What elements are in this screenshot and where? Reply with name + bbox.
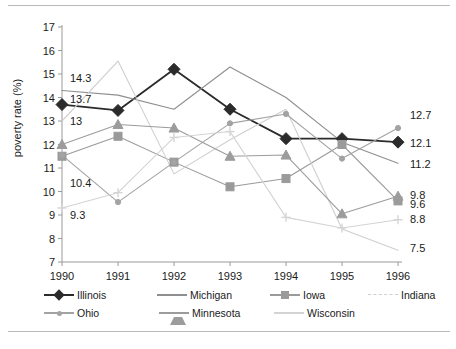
annotation-value: 12.1 (410, 137, 431, 149)
data-point-ohio-1993 (227, 121, 232, 126)
data-point-ohio-1992 (171, 160, 176, 165)
svg-text:15: 15 (43, 68, 55, 80)
annotation-value: 9.3 (70, 209, 85, 221)
svg-text:1996: 1996 (386, 270, 410, 282)
legend-swatch-illinois-icon (44, 288, 74, 302)
svg-text:9: 9 (49, 209, 55, 221)
legend-label: Michigan (190, 289, 232, 301)
legend-swatch-indiana-icon (368, 288, 398, 302)
svg-text:14: 14 (43, 92, 55, 104)
annotation-value: 13.7 (70, 93, 91, 105)
data-point-wisconsin-1990 (58, 203, 67, 212)
svg-text:1995: 1995 (330, 270, 354, 282)
legend-label: Illinois (77, 289, 106, 301)
data-point-wisconsin-1994 (282, 213, 291, 222)
annotation-value: 7.5 (410, 242, 425, 254)
data-point-iowa-1991 (114, 132, 122, 140)
data-point-minnesota-1996 (393, 191, 403, 200)
data-point-wisconsin-1993 (226, 127, 235, 136)
svg-text:1992: 1992 (162, 270, 186, 282)
legend-item-michigan[interactable]: Michigan (157, 286, 233, 304)
data-point-iowa-1995 (338, 141, 346, 149)
svg-text:17: 17 (43, 21, 55, 33)
svg-text:8: 8 (49, 233, 55, 245)
legend-label: Wisconsin (307, 307, 355, 319)
annotation-value: 14.3 (70, 72, 91, 84)
data-point-minnesota-1994 (281, 150, 291, 159)
svg-text:10: 10 (43, 186, 55, 198)
svg-text:12: 12 (43, 139, 55, 151)
data-point-illinois-1990 (56, 99, 68, 111)
svg-text:1993: 1993 (218, 270, 242, 282)
data-point-iowa-1993 (226, 183, 234, 191)
legend-swatch-minnesota-icon (159, 306, 189, 320)
legend-item-indiana[interactable]: Indiana (368, 286, 444, 304)
legend-swatch-michigan-icon (157, 288, 187, 302)
legend-swatch-wisconsin-icon (274, 306, 304, 320)
data-point-wisconsin-1996 (394, 215, 403, 224)
data-point-illinois-1993 (224, 103, 236, 115)
annotation-value: 9.6 (410, 198, 425, 210)
legend-swatch-ohio-icon (44, 306, 74, 320)
chart-legend: IllinoisMichiganIowaIndianaOhioMinnesota… (44, 286, 444, 326)
data-point-illinois-1994 (280, 133, 292, 145)
data-point-wisconsin-1995 (338, 223, 347, 232)
data-point-ohio-1990 (59, 152, 64, 157)
svg-text:1990: 1990 (50, 270, 74, 282)
svg-text:7: 7 (49, 256, 55, 268)
annotation-value: 10.4 (70, 177, 91, 189)
legend-swatch-iowa-icon (270, 288, 300, 302)
data-point-illinois-1996 (392, 136, 404, 148)
legend-row: IllinoisMichiganIowaIndiana (44, 286, 444, 304)
legend-label: Minnesota (192, 307, 240, 319)
annotation-value: 8.8 (410, 213, 425, 225)
svg-text:1991: 1991 (106, 270, 130, 282)
legend-label: Ohio (77, 307, 99, 319)
legend-item-wisconsin[interactable]: Wisconsin (274, 304, 352, 322)
svg-text:13: 13 (43, 115, 55, 127)
data-point-ohio-1995 (339, 156, 344, 161)
series-line-wisconsin (62, 132, 398, 228)
legend-label: Iowa (303, 289, 325, 301)
annotation-value: 13 (70, 115, 82, 127)
legend-item-iowa[interactable]: Iowa (270, 286, 346, 304)
data-point-minnesota-1991 (113, 120, 123, 129)
legend-row: OhioMinnesotaWisconsin (44, 304, 444, 322)
legend-item-ohio[interactable]: Ohio (44, 304, 122, 322)
poverty-rate-line-chart: poverty rate (%) 7891011121314151617 199… (0, 0, 456, 349)
legend-item-illinois[interactable]: Illinois (44, 286, 120, 304)
data-point-ohio-1994 (283, 111, 288, 116)
annotation-value: 12.7 (410, 109, 431, 121)
legend-item-minnesota[interactable]: Minnesota (159, 304, 237, 322)
data-point-ohio-1996 (395, 125, 400, 130)
x-axis: 1990199119921993199419951996 (50, 262, 410, 282)
series-markers (56, 63, 404, 232)
data-point-ohio-1991 (115, 199, 120, 204)
svg-text:11: 11 (44, 162, 55, 174)
svg-text:1994: 1994 (274, 270, 298, 282)
svg-text:16: 16 (43, 45, 55, 57)
data-point-iowa-1994 (282, 175, 290, 183)
annotation-value: 11.2 (410, 158, 431, 170)
legend-label: Indiana (401, 289, 435, 301)
